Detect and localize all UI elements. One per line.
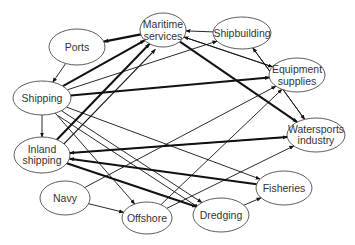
network-diagram: MaritimeservicesPortsShipbuildingShippin… — [0, 0, 355, 245]
node-inland: Inlandshipping — [14, 137, 70, 173]
node-fisheries: Fisheries — [256, 171, 312, 205]
node-label: Fisheries — [263, 182, 306, 194]
node-label: Equipment — [272, 63, 322, 75]
node-label: shipping — [22, 154, 61, 166]
node-label: industry — [298, 134, 336, 146]
node-label: Inland — [28, 143, 57, 155]
node-maritime: Maritimeservices — [140, 13, 186, 47]
node-label: Navy — [53, 192, 78, 204]
edge-ports-to-shipping — [53, 64, 66, 83]
node-label: Dredging — [200, 209, 243, 221]
node-label: Shipbuilding — [213, 27, 270, 39]
edge-navy-to-equipment — [85, 86, 276, 187]
node-watersports: Watersportsindustry — [287, 118, 345, 152]
edge-maritime-to-ports — [104, 34, 141, 41]
node-label: Watersports — [288, 123, 344, 135]
edge-navy-to-offshore — [89, 204, 124, 213]
edge-shipbuilding-to-maritime — [186, 31, 213, 32]
edge-shipping-to-fisheries — [67, 107, 261, 179]
node-ports: Ports — [49, 29, 105, 65]
node-label: Ports — [65, 41, 90, 53]
node-navy: Navy — [40, 181, 90, 215]
edge-dredging-to-fisheries — [244, 198, 261, 205]
node-dredging: Dredging — [193, 198, 249, 232]
node-label: Shipping — [22, 92, 63, 104]
node-label: Maritime — [143, 18, 183, 30]
node-label: supplies — [278, 75, 317, 87]
node-label: Offshore — [127, 212, 167, 224]
node-shipping: Shipping — [13, 81, 71, 115]
node-shipbuilding: Shipbuilding — [213, 17, 271, 49]
node-offshore: Offshore — [122, 202, 172, 234]
node-label: services — [144, 30, 183, 42]
node-equipment: Equipmentsupplies — [269, 58, 325, 92]
edge-shipping-to-equipment — [71, 78, 270, 96]
